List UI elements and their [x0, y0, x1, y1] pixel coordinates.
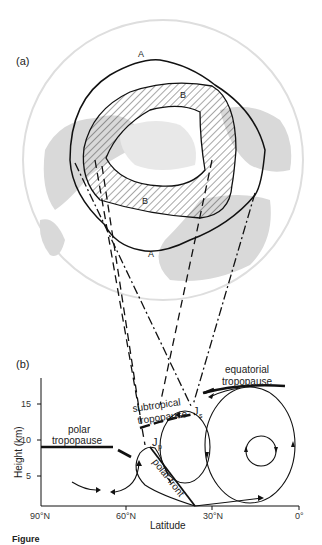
x-axis-title: Latitude — [150, 520, 186, 531]
y-tick-5: 5 — [26, 471, 31, 481]
x-tick-60n: 60°N — [116, 511, 136, 521]
equatorial-tropopause-line1: equatorial — [225, 364, 269, 375]
x-tick-90n: 90°N — [30, 511, 50, 521]
polar-tropopause-line1: polar — [68, 424, 91, 435]
jet-polar-label: J — [152, 436, 158, 448]
figure-caption: Figure — [12, 534, 40, 544]
panel-a-label: (a) — [16, 55, 29, 67]
polar-tropopause-line2: tropopause — [52, 435, 102, 446]
panel-b-label: (b) — [16, 358, 29, 370]
equatorial-tropopause-line2: tropopause — [222, 376, 272, 387]
x-tick-30n: 30°N — [203, 511, 223, 521]
x-tick-0: 0° — [295, 511, 304, 521]
label-a-bottom: A — [148, 249, 154, 259]
globe-background — [23, 20, 303, 300]
polar-front-label: polar front — [150, 456, 187, 498]
y-tick-15: 15 — [21, 399, 31, 409]
jet-stream-diagram: (a) A A B B (b) 5 10 15 Height (km) 90°N… — [0, 0, 322, 545]
label-a-top: A — [138, 49, 144, 59]
y-axis-title: Height (km) — [13, 426, 24, 478]
label-b-bottom: B — [142, 196, 148, 206]
label-b-top: B — [180, 90, 186, 100]
